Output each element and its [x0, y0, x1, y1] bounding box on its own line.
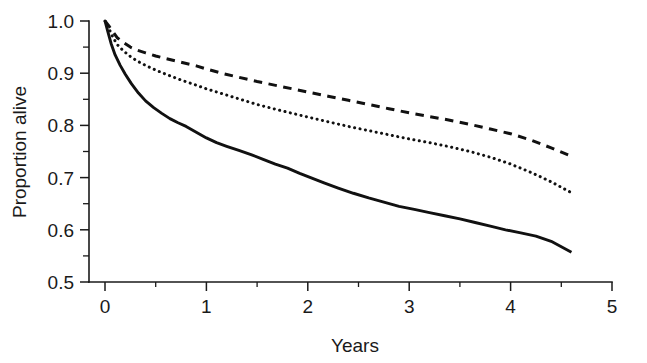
y-axis-title: Proportion alive	[9, 86, 30, 218]
x-tick-label: 2	[303, 296, 314, 317]
y-tick-label: 1.0	[48, 11, 74, 32]
y-axis-ticks	[80, 21, 89, 282]
x-tick-label: 5	[607, 296, 618, 317]
y-tick-label: 0.6	[48, 220, 74, 241]
dashed-upper-curve	[105, 21, 571, 156]
x-tick-label: 3	[404, 296, 415, 317]
x-axis-ticks	[105, 282, 612, 291]
y-tick-label: 0.8	[48, 115, 74, 136]
y-axis-tick-labels: 0.50.60.70.80.91.0	[48, 11, 74, 293]
x-tick-label: 0	[100, 296, 111, 317]
survival-curve-figure: 0.50.60.70.80.91.0 012345 Years Proporti…	[0, 0, 647, 363]
x-axis-title: Years	[331, 335, 379, 356]
solid-lower-curve	[105, 21, 571, 252]
chart-canvas: 0.50.60.70.80.91.0 012345 Years Proporti…	[0, 0, 647, 363]
y-tick-label: 0.9	[48, 63, 74, 84]
y-tick-label: 0.7	[48, 168, 74, 189]
x-tick-label: 1	[201, 296, 212, 317]
data-curves	[105, 21, 571, 252]
dotted-middle-curve	[105, 21, 571, 193]
x-axis-tick-labels: 012345	[100, 296, 618, 317]
x-tick-label: 4	[505, 296, 516, 317]
y-tick-label: 0.5	[48, 272, 74, 293]
